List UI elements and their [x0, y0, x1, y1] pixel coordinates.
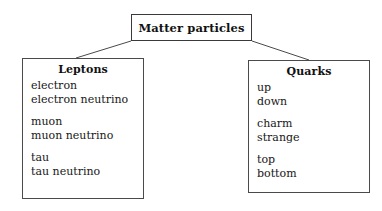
category-title-leptons: Leptons	[23, 63, 143, 76]
category-list-leptons: electron electron neutrino muon muon neu…	[23, 79, 143, 178]
list-item: tau neutrino	[31, 165, 143, 179]
list-item: down	[257, 95, 369, 109]
category-list-quarks: up down charm strange top bottom	[249, 81, 369, 180]
generation-group: muon muon neutrino	[31, 115, 143, 142]
category-box-leptons: Leptons electron electron neutrino muon …	[22, 58, 144, 199]
list-item: up	[257, 81, 369, 95]
generation-group: charm strange	[257, 117, 369, 144]
category-box-quarks: Quarks up down charm strange top bottom	[248, 60, 370, 193]
root-node-label: Matter particles	[138, 21, 244, 35]
diagram-canvas: Matter particles Leptons electron electr…	[0, 0, 382, 211]
list-item: muon	[31, 115, 143, 129]
generation-group: up down	[257, 81, 369, 108]
root-node-matter-particles: Matter particles	[131, 14, 252, 41]
list-item: strange	[257, 131, 369, 145]
connector-root-to-quarks	[252, 41, 309, 60]
list-item: muon neutrino	[31, 129, 143, 143]
list-item: top	[257, 153, 369, 167]
list-item: bottom	[257, 167, 369, 181]
category-title-quarks: Quarks	[249, 65, 369, 78]
generation-group: top bottom	[257, 153, 369, 180]
generation-group: tau tau neutrino	[31, 151, 143, 178]
connector-root-to-leptons	[76, 41, 131, 58]
list-item: tau	[31, 151, 143, 165]
list-item: charm	[257, 117, 369, 131]
list-item: electron	[31, 79, 143, 93]
generation-group: electron electron neutrino	[31, 79, 143, 106]
list-item: electron neutrino	[31, 93, 143, 107]
